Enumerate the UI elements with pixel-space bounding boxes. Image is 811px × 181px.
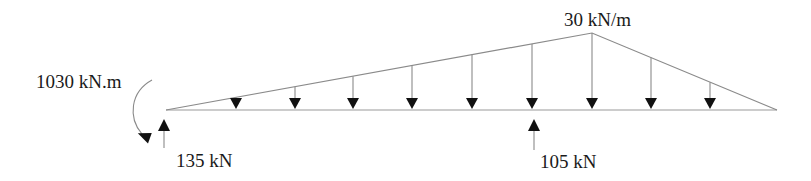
moment-arrow bbox=[133, 80, 152, 143]
reaction-label-left: 135 kN bbox=[176, 151, 232, 170]
reaction-arrow-left bbox=[158, 119, 170, 148]
reaction-arrow-right bbox=[528, 119, 540, 150]
distributed-load-arrows bbox=[236, 33, 710, 100]
load-label: 30 kN/m bbox=[564, 10, 631, 29]
moment-label: 1030 kN.m bbox=[36, 72, 122, 91]
reaction-label-right: 105 kN bbox=[540, 152, 596, 171]
load-arrowheads bbox=[230, 98, 716, 109]
